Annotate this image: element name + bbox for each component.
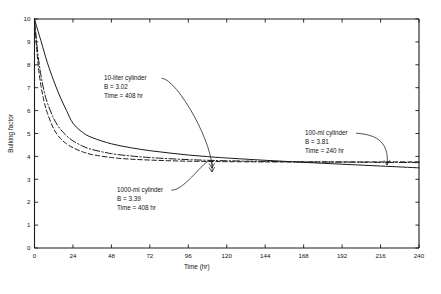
ann-1000-ml-line-2: B = 3.39 — [117, 195, 141, 202]
bulking-factor-line-chart: 024487296120144168192216240012345678910T… — [0, 0, 441, 294]
chart-axes: 024487296120144168192216240012345678910T… — [7, 15, 425, 271]
y-tick-label: 10 — [24, 15, 31, 22]
series-line-1 — [35, 19, 420, 168]
y-tick-label: 6 — [27, 107, 31, 114]
chart-series — [35, 19, 420, 168]
ann-1000-ml-leader — [171, 160, 212, 190]
x-tick-label: 240 — [414, 252, 425, 259]
y-tick-label: 0 — [27, 244, 31, 251]
x-tick-label: 144 — [260, 252, 271, 259]
ann-100-ml-line-3: Time = 240 hr — [305, 147, 344, 154]
x-tick-label: 72 — [146, 252, 153, 259]
figure-caption — [0, 287, 441, 294]
y-tick-label: 1 — [27, 221, 31, 228]
x-tick-label: 216 — [375, 252, 386, 259]
ann-1000-ml-line-1: 1000-ml cylinder — [117, 186, 163, 194]
x-tick-label: 48 — [108, 252, 115, 259]
y-tick-label: 4 — [27, 153, 31, 160]
x-tick-label: 24 — [70, 252, 77, 259]
y-tick-label: 3 — [27, 176, 31, 183]
chart-figure: 024487296120144168192216240012345678910T… — [0, 0, 441, 294]
series-line-2 — [35, 19, 420, 163]
ann-10-liter-line-2: B = 3.02 — [104, 83, 128, 90]
ann-10-liter-leader — [162, 78, 213, 172]
ann-1000-ml: 1000-ml cylinderB = 3.39Time = 408 hr — [117, 160, 215, 211]
ann-100-ml-line-2: B = 3.81 — [305, 138, 329, 145]
y-axis-title: Bulking factor — [7, 113, 15, 153]
y-tick-label: 7 — [27, 84, 31, 91]
y-tick-label: 9 — [27, 38, 31, 45]
ann-100-ml-line-1: 100-ml cylinder — [305, 129, 348, 137]
y-tick-label: 5 — [27, 130, 31, 137]
ann-10-liter: 10-liter cylinderB = 3.02Time = 408 hr — [104, 74, 215, 172]
x-tick-label: 0 — [33, 252, 37, 259]
ann-100-ml-leader — [356, 133, 387, 165]
ann-10-liter-line-1: 10-liter cylinder — [104, 74, 147, 82]
x-tick-label: 96 — [185, 252, 192, 259]
chart-annotations: 10-liter cylinderB = 3.02Time = 408 hr10… — [104, 74, 390, 211]
x-axis-title: Time (hr) — [184, 263, 210, 271]
ann-10-liter-line-3: Time = 408 hr — [104, 92, 143, 99]
ann-100-ml: 100-ml cylinderB = 3.81Time = 240 hr — [305, 129, 390, 165]
y-tick-label: 2 — [27, 198, 31, 205]
ann-1000-ml-line-3: Time = 408 hr — [117, 204, 156, 211]
x-tick-label: 168 — [298, 252, 309, 259]
y-tick-label: 8 — [27, 61, 31, 68]
x-tick-label: 192 — [337, 252, 348, 259]
series-line-3 — [35, 19, 420, 162]
x-tick-label: 120 — [222, 252, 233, 259]
